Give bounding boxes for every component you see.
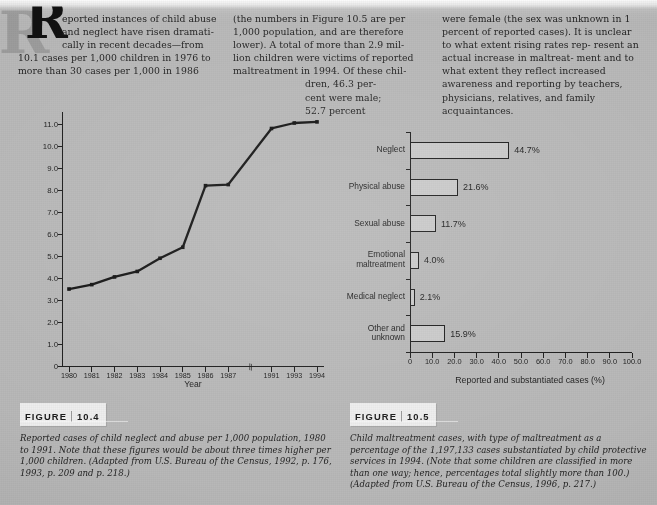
textbook-page: R R eported instances of child abuse and… xyxy=(0,0,657,505)
bar xyxy=(410,179,458,196)
figure-10-4-caption-block: FIGURE10.4 Reported cases of child negle… xyxy=(20,403,332,479)
x-axis-tick-label: 10.0 xyxy=(425,357,439,366)
y-axis-tick xyxy=(406,242,411,243)
bar-value-label: 11.7% xyxy=(441,219,466,229)
line-plot-area: 01.02.03.04.05.06.07.08.09.010.011.01980… xyxy=(62,112,324,366)
bar-value-label: 21.6% xyxy=(463,182,489,192)
figure-caption-text: Reported cases of child neglect and abus… xyxy=(20,433,332,479)
figure-tag: FIGURE10.4 xyxy=(20,403,106,426)
x-axis-line xyxy=(62,366,324,367)
x-axis-tick-label: 1981 xyxy=(84,371,100,380)
figure-10-5-caption-block: FIGURE10.5 Child maltreatment cases, wit… xyxy=(350,403,650,491)
y-axis-tick xyxy=(406,132,411,133)
bar-value-label: 2.1% xyxy=(420,292,441,302)
x-axis-tick-label: 0 xyxy=(408,357,412,366)
y-axis-tick xyxy=(406,315,411,316)
text-line: maltreatment in 1994. Of these chil- xyxy=(233,65,406,76)
x-axis-tick-label: 40.0 xyxy=(492,357,506,366)
y-axis-tick-label: 11.0 xyxy=(43,120,58,129)
x-axis-tick-label: 1987 xyxy=(220,371,236,380)
bar-category-label: Physical abuse xyxy=(341,182,405,192)
x-axis-tick-label: 1986 xyxy=(198,371,214,380)
bar-category-label: Other and unknown xyxy=(341,324,405,343)
y-axis-tick-label: 9.0 xyxy=(47,164,58,173)
bar xyxy=(410,215,436,232)
x-axis-tick-label: 1983 xyxy=(129,371,145,380)
text-column-2: (the numbers in Figure 10.5 are per 1,00… xyxy=(233,12,419,117)
y-axis-tick-label: 10.0 xyxy=(43,142,58,151)
y-axis-tick-label: 1.0 xyxy=(47,340,58,349)
bar-category-label: Emotional maltreatment xyxy=(341,251,405,270)
x-axis-tick-label: 20.0 xyxy=(447,357,461,366)
bar xyxy=(410,289,415,306)
line-series xyxy=(62,112,324,366)
y-axis-tick-label: 0 xyxy=(54,362,58,371)
figure-tag: FIGURE10.5 xyxy=(350,403,436,426)
x-axis-tick-label: 30.0 xyxy=(469,357,483,366)
text-line: lower). A total of more than 2.9 mil- xyxy=(233,39,404,50)
y-axis-tick-label: 7.0 xyxy=(47,208,58,217)
x-axis-tick-label: 100.0 xyxy=(623,357,642,366)
y-axis-tick-label: 6.0 xyxy=(47,230,58,239)
y-axis-tick xyxy=(406,279,411,280)
y-axis-tick xyxy=(406,205,411,206)
text-line: were female (the sex was unknown xyxy=(442,13,609,24)
y-axis-tick-label: 2.0 xyxy=(47,318,58,327)
x-axis-tick-label: 1982 xyxy=(107,371,123,380)
x-axis-tick-label: 70.0 xyxy=(558,357,572,366)
caption-rule xyxy=(20,421,128,422)
x-axis-tick-label: 50.0 xyxy=(514,357,528,366)
x-axis-tick-label: 1985 xyxy=(175,371,191,380)
bar-category-label: Neglect xyxy=(341,146,405,156)
text-line: 10.1 cases per 1,000 children in 1976 to xyxy=(18,51,226,64)
text-line: lion children were victims of reported xyxy=(233,52,414,63)
text-line: (the numbers in Figure 10.5 are per xyxy=(233,13,405,24)
figure-10-4-line-chart: Reports per 1,000 population Year 01.02.… xyxy=(16,104,346,394)
caption-rule xyxy=(350,421,458,422)
bar-value-label: 15.9% xyxy=(450,329,476,339)
bar-category-label: Medical neglect xyxy=(341,292,405,302)
x-axis-tick-label: 1994 xyxy=(309,371,325,380)
x-axis-label: Reported and substantiated cases (%) xyxy=(410,375,650,385)
figure-caption-text: Child maltreatment cases, with type of m… xyxy=(350,433,650,491)
y-axis-tick-label: 3.0 xyxy=(47,296,58,305)
y-axis-tick-label: 8.0 xyxy=(47,186,58,195)
text-column-1: eported instances of child abuse and neg… xyxy=(18,12,226,77)
x-axis-tick-label: 1993 xyxy=(286,371,302,380)
bar xyxy=(410,252,419,269)
x-axis-tick-label: 1991 xyxy=(263,371,279,380)
y-axis-tick xyxy=(406,169,411,170)
x-axis-tick-label: 1984 xyxy=(152,371,168,380)
text-line: and neglect have risen dramati- xyxy=(18,25,226,38)
figure-10-5-bar-chart: 44.7%Neglect21.6%Physical abuse11.7%Sexu… xyxy=(350,122,650,394)
bar-value-label: 4.0% xyxy=(424,255,445,265)
text-column-3: were female (the sex was unknown in 1 pe… xyxy=(442,12,642,117)
y-axis-tick-label: 5.0 xyxy=(47,252,58,261)
bar xyxy=(410,142,509,159)
text-line: 1,000 population, and are therefore xyxy=(233,26,404,37)
x-axis-tick-label: 80.0 xyxy=(580,357,594,366)
text-line: eported instances of child abuse xyxy=(18,12,226,25)
bar-category-label: Sexual abuse xyxy=(341,219,405,229)
text-line: cent were male; xyxy=(233,92,381,103)
x-axis-label: Year xyxy=(62,379,324,389)
bar-plot-area: 44.7%Neglect21.6%Physical abuse11.7%Sexu… xyxy=(410,132,632,352)
x-axis-tick-label: 1980 xyxy=(61,371,77,380)
text-line: dren, 46.3 per- xyxy=(233,78,376,89)
text-line: cally in recent decades—from xyxy=(18,38,226,51)
bar xyxy=(410,325,445,342)
x-axis-tick-label: 60.0 xyxy=(536,357,550,366)
y-axis-tick-label: 4.0 xyxy=(47,274,58,283)
x-axis-tick-label: 90.0 xyxy=(603,357,617,366)
bar-value-label: 44.7% xyxy=(514,145,540,155)
text-line: more than 30 cases per 1,000 in 1986 xyxy=(18,64,226,77)
